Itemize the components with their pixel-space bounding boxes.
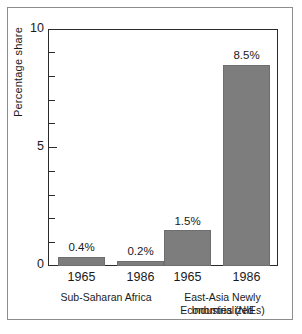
bar-east-asia-nies-1965[interactable]	[164, 230, 211, 266]
x-tick-label-1: 1965	[57, 270, 106, 284]
bar-value-label-1: 0.4%	[57, 241, 106, 253]
y-label-5: 5	[24, 139, 44, 153]
x-tick-label-4: 1986	[222, 270, 271, 284]
y-tick-6	[48, 123, 55, 124]
y-label-0: 0	[24, 257, 44, 271]
bar-sub-saharan-africa-1986[interactable]	[117, 261, 164, 266]
y-tick-5	[48, 147, 57, 148]
y-tick-10	[48, 29, 57, 30]
bar-sub-saharan-africa-1965[interactable]	[58, 257, 105, 267]
bar-value-label-4: 8.5%	[222, 49, 271, 61]
y-label-10: 10	[24, 21, 44, 35]
bar-east-asia-nies-1986[interactable]	[223, 65, 270, 267]
group-label-east-asia-nies-line2: Economies (NIEs)	[160, 304, 285, 317]
y-tick-2	[48, 218, 55, 219]
y-tick-1	[48, 242, 55, 243]
y-tick-7	[48, 100, 55, 101]
y-tick-8	[48, 76, 55, 77]
y-tick-9	[48, 52, 55, 53]
x-tick-label-3: 1965	[163, 270, 212, 284]
bar-value-label-3: 1.5%	[163, 215, 212, 227]
x-tick-label-2: 1986	[116, 270, 165, 284]
y-tick-3	[48, 195, 55, 196]
y-tick-4	[48, 171, 55, 172]
bar-value-label-2: 0.2%	[116, 245, 165, 257]
bar-chart: Percentage share 10 5 0 0.4% 0.2% 1.5% 8…	[0, 0, 302, 334]
group-label-sub-saharan-africa: Sub-Saharan Africa	[46, 291, 166, 304]
y-axis-labels: 10 5 0	[20, 0, 44, 334]
